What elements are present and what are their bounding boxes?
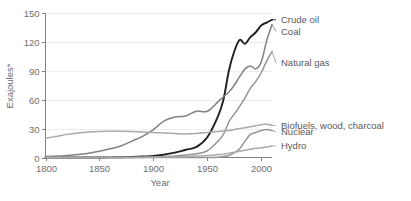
y-axis-title: Exajoules* [4,63,15,108]
y-tick-label-30: 30 [29,124,40,135]
energy-consumption-line-chart: 0306090120150 18001850190019502000 Exajo… [0,0,411,201]
y-tick-label-120: 120 [24,37,40,48]
x-tick-label-1800: 1800 [36,163,57,174]
series-label-natural-gas: Natural gas [281,57,330,68]
x-tick-label-1950: 1950 [197,163,218,174]
series-label-nuclear: Nuclear [281,126,314,137]
series-label-hydro: Hydro [281,140,306,151]
x-tick-label-1900: 1900 [143,163,164,174]
series-label-crude-oil: Crude oil [281,14,319,25]
y-tick-label-150: 150 [24,8,40,19]
series-label-coal: Coal [281,26,301,37]
y-tick-label-60: 60 [29,95,40,106]
y-tick-label-90: 90 [29,66,40,77]
chart-canvas: 0306090120150 18001850190019502000 Exajo… [0,0,411,201]
x-tick-label-1850: 1850 [89,163,110,174]
x-tick-label-2000: 2000 [251,163,272,174]
x-axis-title: Year [150,177,169,188]
